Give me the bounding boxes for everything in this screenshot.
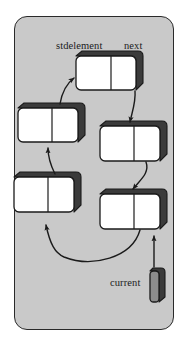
label-stdelement: stdelement xyxy=(56,40,103,52)
node-left-upper xyxy=(18,103,85,142)
arrow-left-lower-to-left-upper xyxy=(48,148,55,174)
diagram-canvas: stdelement next current xyxy=(0,0,189,345)
node-right-middle xyxy=(100,121,167,161)
label-current: current xyxy=(110,277,140,289)
node-right-lower xyxy=(100,189,167,229)
arrow-top-to-right-middle xyxy=(130,91,135,122)
node-top xyxy=(76,51,143,90)
current-pointer-cell xyxy=(150,268,165,302)
node-left-lower xyxy=(14,172,81,212)
label-next: next xyxy=(124,40,142,52)
arrow-right-middle-to-right-lower xyxy=(133,162,147,189)
arrow-left-upper-to-top xyxy=(60,78,74,104)
arrow-right-lower-to-left-lower xyxy=(46,225,140,261)
